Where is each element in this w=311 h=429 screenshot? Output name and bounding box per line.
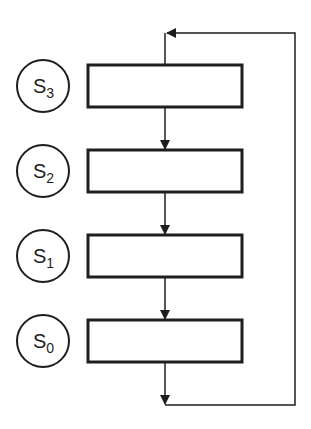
state-flow-diagram: S3 S2 S1 S0 — [0, 0, 311, 429]
process-box-s2 — [88, 150, 242, 192]
feedback-loop-arrow — [165, 33, 295, 405]
state-label: S3 — [33, 75, 54, 101]
state-s3: S3 — [17, 60, 69, 112]
state-s2: S2 — [17, 145, 69, 197]
process-box-s1 — [88, 235, 242, 277]
state-label: S1 — [33, 245, 54, 271]
state-s0: S0 — [17, 315, 69, 367]
process-box-s0 — [88, 320, 242, 362]
state-label: S0 — [33, 330, 54, 356]
process-box-s3 — [88, 65, 242, 107]
state-label: S2 — [33, 160, 54, 186]
state-s1: S1 — [17, 230, 69, 282]
